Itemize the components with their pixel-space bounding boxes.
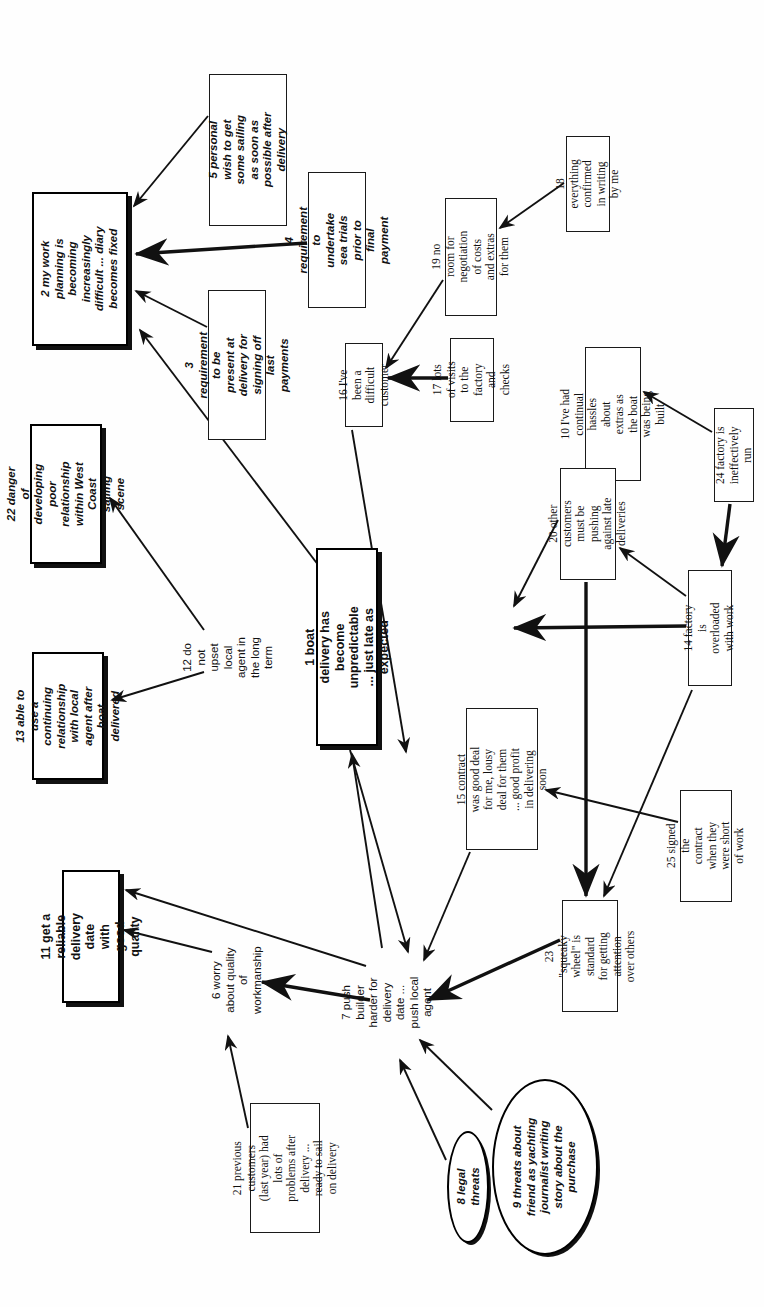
concept-node-5[interactable]: 5 personal wish to get some sailing as s… (209, 74, 287, 226)
concept-node-label: 9 threats about friend as yachting journ… (511, 1116, 579, 1218)
concept-node-label: 5 personal wish to get some sailing as s… (207, 112, 288, 188)
concept-node-label: 13 able to use a continuing relationship… (14, 682, 123, 750)
concept-node-8[interactable]: 8 legal threats (447, 1131, 489, 1243)
concept-node-4[interactable]: 4 requirement to undertake sea trials pr… (308, 172, 366, 308)
concept-node-label: 21 previous customers (last year) had lo… (231, 1134, 340, 1202)
concept-node-23[interactable]: 23 "squeaky wheel" is standard for getti… (562, 900, 618, 1012)
concept-node-label: 18 everything confirmed in writing by me (554, 159, 622, 208)
concept-node-label: 12 do not upset local agent in the long … (181, 635, 276, 679)
concept-node-label: 1 boat delivery has become unpredictable… (303, 606, 392, 688)
concept-node-label: 14 factory is overloaded with work (683, 602, 737, 653)
concept-node-17[interactable]: 17 lots of visits to the factory and che… (450, 338, 494, 422)
link-arrow (514, 626, 686, 628)
link-arrow (386, 280, 443, 368)
concept-node-24[interactable]: 24 factory is ineffectively run (714, 408, 754, 502)
concept-node-12[interactable]: 12 do not upset local agent in the long … (206, 608, 250, 706)
concept-node-11[interactable]: 11 get a reliable delivery date with goo… (62, 870, 120, 1003)
link-arrow (134, 116, 208, 206)
concept-node-label: 22 danger of developing poor relationshi… (5, 460, 127, 528)
concept-node-7[interactable]: 7 push builder harder for delivery date … (358, 952, 416, 1052)
concept-node-13[interactable]: 13 able to use a continuing relationship… (32, 652, 104, 780)
concept-node-9[interactable]: 9 threats about friend as yachting journ… (492, 1079, 598, 1255)
concept-node-10[interactable]: 10 I've had continual hassles about extr… (585, 347, 641, 481)
concept-node-20[interactable]: 20 other customers must be pushing again… (560, 468, 616, 580)
link-arrow (228, 1036, 248, 1128)
concept-node-label: 19 no room for negotiation of costs and … (430, 231, 511, 283)
concept-node-label: 6 worry about quality of workmanship (210, 946, 264, 1014)
link-arrow (546, 790, 678, 822)
link-arrow (428, 940, 560, 1000)
concept-node-19[interactable]: 19 no room for negotiation of costs and … (445, 198, 497, 316)
concept-node-label: 3 requirement to be present at delivery … (183, 332, 292, 398)
concept-node-18[interactable]: 18 everything confirmed in writing by me (566, 136, 610, 232)
concept-node-1[interactable]: 1 boat delivery has become unpredictable… (316, 548, 378, 746)
concept-node-label: 10 I've had continual hassles about extr… (559, 387, 668, 441)
concept-node-label: 4 requirement to undertake sea trials pr… (283, 207, 392, 273)
concept-node-label: 25 signed the contract when they were sh… (665, 821, 746, 871)
link-arrow (352, 754, 382, 948)
concept-node-15[interactable]: 15 contract was good deal for me, lousy … (466, 708, 538, 850)
concept-node-label: 8 legal threats (454, 1168, 481, 1206)
concept-node-label: 2 my work planning is becoming increasin… (39, 223, 120, 315)
concept-node-label: 16 I've been a difficult customer (337, 364, 391, 406)
concept-node-label: 15 contract was good deal for me, lousy … (455, 744, 550, 814)
concept-node-label: 23 "squeaky wheel" is standard for getti… (543, 929, 638, 983)
link-arrow (620, 548, 686, 596)
concept-node-label: 7 push builder harder for delivery date … (340, 973, 435, 1031)
link-arrow (420, 1040, 492, 1110)
concept-node-label: 20 other customers must be pushing again… (547, 497, 628, 551)
link-arrow (722, 504, 730, 566)
link-arrow (400, 1060, 446, 1160)
concept-node-22[interactable]: 22 danger of developing poor relationshi… (30, 424, 102, 564)
link-arrow (350, 750, 408, 952)
link-arrow (136, 243, 307, 254)
link-arrow (424, 852, 470, 960)
concept-node-label: 24 factory is ineffectively run (714, 426, 755, 484)
concept-node-2[interactable]: 2 my work planning is becoming increasin… (32, 192, 128, 346)
concept-node-label: 17 lots of visits to the factory and che… (431, 359, 512, 401)
concept-node-6[interactable]: 6 worry about quality of workmanship (215, 930, 259, 1030)
concept-node-25[interactable]: 25 signed the contract when they were sh… (680, 790, 732, 902)
concept-node-21[interactable]: 21 previous customers (last year) had lo… (250, 1103, 320, 1233)
concept-node-3[interactable]: 3 requirement to be present at delivery … (208, 290, 266, 440)
concept-node-label: 11 get a reliable delivery date with goo… (39, 910, 142, 964)
concept-node-16[interactable]: 16 I've been a difficult customer (345, 343, 383, 427)
link-arrow (136, 291, 207, 327)
concept-node-14[interactable]: 14 factory is overloaded with work (688, 570, 732, 686)
